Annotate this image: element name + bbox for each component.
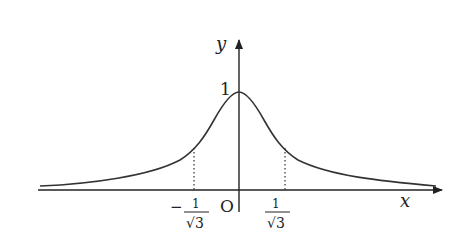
numerator: 1 xyxy=(192,197,200,211)
x-tick-neg-inv-sqrt3: − 1 √3 xyxy=(170,197,209,231)
denominator: √3 xyxy=(186,215,204,231)
y-axis-label: y xyxy=(215,33,227,54)
x-tick-pos-inv-sqrt3: 1 √3 xyxy=(265,197,290,231)
function-graph: y x O 1 − 1 √3 1 √3 xyxy=(0,0,468,244)
bell-curve xyxy=(40,92,436,186)
x-axis-label: x xyxy=(400,190,410,211)
origin-label: O xyxy=(220,196,234,216)
numerator: 1 xyxy=(272,197,280,211)
y-tick-1-label: 1 xyxy=(220,79,231,99)
denominator: √3 xyxy=(267,215,285,231)
minus-sign: − xyxy=(170,198,183,216)
